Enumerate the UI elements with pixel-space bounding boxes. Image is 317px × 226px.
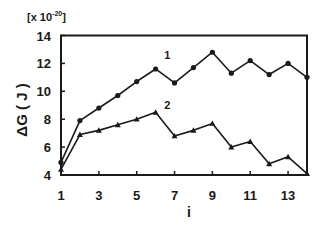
x-tick-label: 1: [57, 188, 64, 203]
y-tick-label: 4: [44, 168, 52, 183]
svg-text:ΔG ( J ): ΔG ( J ): [13, 83, 30, 136]
y-tick-label: 8: [44, 112, 51, 127]
plot-frame: [61, 36, 307, 176]
data-point-circle: [304, 75, 309, 80]
data-point-triangle: [209, 120, 215, 125]
svg-text:[x 10-20]: [x 10-20]: [27, 10, 66, 23]
data-point-circle: [210, 50, 215, 55]
data-point-circle: [77, 118, 82, 123]
x-tick-label: 7: [171, 188, 178, 203]
data-point-circle: [191, 65, 196, 70]
data-point-triangle: [153, 109, 159, 114]
data-point-circle: [96, 105, 101, 110]
chart: [x 10-20] ΔG ( J ) 468101214 135791113 1…: [0, 0, 317, 226]
data-point-triangle: [247, 139, 253, 144]
data-point-triangle: [285, 154, 291, 159]
x-tick-label: 11: [243, 188, 257, 203]
plot-border: [61, 36, 307, 176]
data-point-circle: [115, 93, 120, 98]
series-1: 1: [58, 49, 309, 165]
x-tick-label: 9: [209, 188, 216, 203]
y-tick-label: 12: [37, 56, 51, 71]
x-tick-label: 5: [133, 188, 140, 203]
data-point-circle: [134, 79, 139, 84]
data-point-circle: [229, 71, 234, 76]
series-label: 1: [164, 49, 170, 61]
series-layer: 12: [58, 49, 310, 176]
data-point-circle: [285, 61, 290, 66]
x-tick-label: 3: [95, 188, 102, 203]
y-tick-label: 6: [44, 140, 51, 155]
y-tick-label: 14: [37, 29, 52, 44]
x-tick-label: 13: [281, 188, 295, 203]
data-point-circle: [172, 80, 177, 85]
multiplier-label: [x 10-20]: [27, 10, 66, 23]
data-point-circle: [153, 66, 158, 71]
data-point-circle: [58, 160, 63, 165]
y-axis-label: ΔG ( J ): [13, 83, 30, 136]
y-tick-label: 10: [37, 84, 51, 99]
x-axis-label: i: [187, 204, 191, 220]
data-point-circle: [248, 58, 253, 63]
series-label: 2: [164, 99, 170, 111]
data-point-triangle: [58, 166, 64, 171]
data-point-circle: [267, 72, 272, 77]
